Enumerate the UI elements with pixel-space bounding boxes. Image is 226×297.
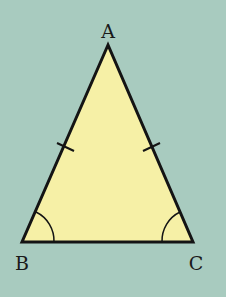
vertex-label-b: B (15, 252, 29, 274)
vertex-label-a: A (100, 20, 115, 42)
vertex-label-c: C (189, 252, 204, 274)
diagram-canvas: A B C (0, 0, 226, 297)
triangle-diagram: A B C (0, 0, 226, 297)
